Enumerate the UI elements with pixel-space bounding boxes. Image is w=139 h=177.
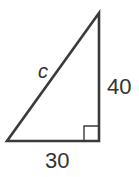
right-triangle <box>7 13 99 141</box>
triangle-diagram: c 40 30 <box>0 0 139 177</box>
right-angle-marker <box>84 126 99 141</box>
vertical-leg-label: 40 <box>107 74 131 99</box>
horizontal-leg-label: 30 <box>45 148 69 173</box>
hypotenuse-label: c <box>38 60 48 82</box>
